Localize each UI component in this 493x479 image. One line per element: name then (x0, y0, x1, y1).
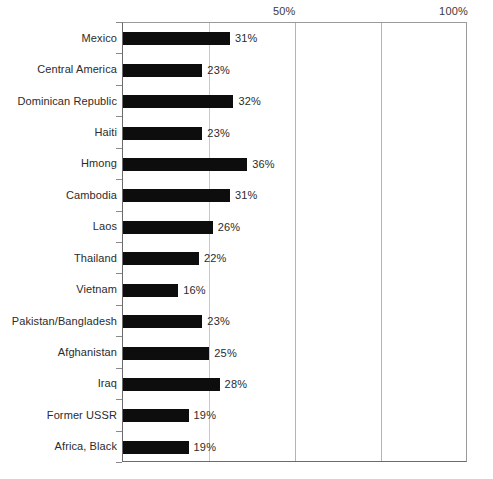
y-axis-category-labels: MexicoCentral AmericaDominican RepublicH… (0, 0, 117, 479)
bar (123, 441, 189, 454)
x-axis-tick-label: 50% (273, 5, 296, 17)
bar (123, 378, 220, 391)
bar-value-label: 32% (238, 94, 261, 109)
bar (123, 284, 178, 297)
category-label: Central America (0, 63, 117, 76)
bar (123, 95, 233, 108)
bar-value-label: 28% (225, 377, 248, 392)
bar (123, 127, 202, 140)
bar (123, 32, 230, 45)
x-axis-tick-label: 100% (439, 5, 468, 17)
bar-value-label: 19% (194, 408, 217, 423)
bar (123, 409, 189, 422)
gridline (209, 23, 210, 461)
category-label: Pakistan/Bangladesh (0, 314, 117, 327)
bar (123, 189, 230, 202)
category-label: Iraq (0, 377, 117, 390)
bar (123, 221, 213, 234)
category-label: Haiti (0, 126, 117, 139)
bar-value-label: 31% (235, 188, 258, 203)
bar-value-label: 36% (252, 157, 275, 172)
category-label: Former USSR (0, 408, 117, 421)
category-label: Dominican Republic (0, 94, 117, 107)
bar (123, 347, 209, 360)
plot-area: 31%23%32%23%36%31%26%22%16%23%25%28%19%1… (122, 22, 467, 462)
bar-value-label: 19% (194, 440, 217, 455)
category-label: Mexico (0, 31, 117, 44)
bar-value-label: 23% (207, 314, 230, 329)
bar (123, 252, 199, 265)
category-label: Cambodia (0, 188, 117, 201)
bar-value-label: 23% (207, 63, 230, 78)
gridline (295, 23, 296, 461)
category-label: Laos (0, 220, 117, 233)
gridline (381, 23, 382, 461)
bar-value-label: 16% (183, 283, 206, 298)
bar-value-label: 31% (235, 31, 258, 46)
category-label: Hmong (0, 157, 117, 170)
category-label: Afghanistan (0, 346, 117, 359)
bar (123, 158, 247, 171)
category-label: Thailand (0, 251, 117, 264)
bar-chart: 50%100% MexicoCentral AmericaDominican R… (0, 0, 493, 479)
bar (123, 64, 202, 77)
bar-value-label: 22% (204, 251, 227, 266)
bar-value-label: 25% (214, 346, 237, 361)
bar-value-label: 23% (207, 126, 230, 141)
category-label: Africa, Black (0, 440, 117, 453)
y-axis-tick (116, 462, 122, 463)
bar-value-label: 26% (218, 220, 241, 235)
category-label: Vietnam (0, 283, 117, 296)
bar (123, 315, 202, 328)
